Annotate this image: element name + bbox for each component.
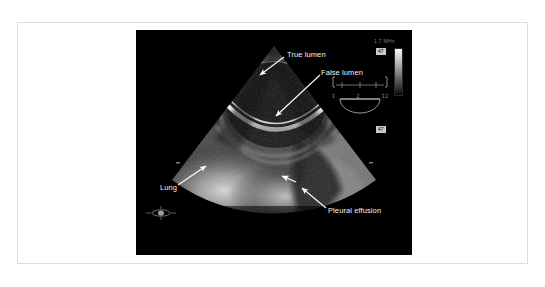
probe-tick-2: 2 xyxy=(357,94,360,99)
probe-scale-ticks: 3 2 3.2 xyxy=(332,94,388,99)
depth-tick-right xyxy=(369,162,373,163)
annotation-label-false-lumen: False lumen xyxy=(321,68,363,77)
ultrasound-image-panel: 1.7 MHz 47 47 3 2 3.2 xyxy=(136,30,412,255)
annotation-label-true-lumen: True lumen xyxy=(287,50,326,59)
probe-tick-1: 3 xyxy=(332,94,335,99)
scanner-logo-marker xyxy=(144,205,178,221)
gain-tag-lower: 47 xyxy=(376,126,386,133)
transducer-frequency-label: 1.7 MHz xyxy=(374,38,395,44)
annotation-label-lung: Lung xyxy=(160,183,177,192)
depth-tick-left xyxy=(176,162,180,163)
grayscale-colorbar xyxy=(394,48,403,96)
sector-scan xyxy=(136,30,412,255)
gain-tag-upper: 47 xyxy=(376,48,386,55)
figure-root: 1.7 MHz 47 47 3 2 3.2 xyxy=(0,0,545,287)
probe-tick-3: 3.2 xyxy=(382,94,388,99)
annotation-label-pleural-effusion: Pleural effusion xyxy=(328,206,381,215)
ultrasound-sector-graphic xyxy=(136,30,412,255)
